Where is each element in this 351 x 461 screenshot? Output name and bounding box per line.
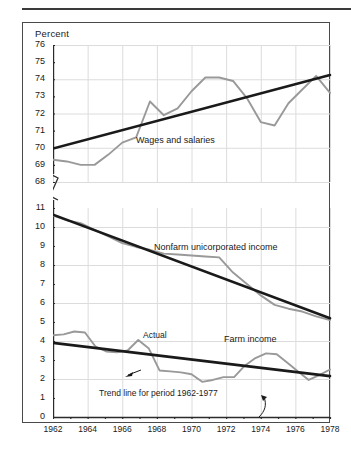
- y-tick-label-upper: 70: [27, 142, 45, 152]
- y-tick-label-lower: 7: [27, 278, 45, 288]
- actual-callout-arrow: [125, 372, 133, 377]
- y-tick-label-upper: 76: [27, 39, 45, 49]
- y-tick-label-upper: 75: [27, 56, 45, 66]
- y-tick-label-lower: 0: [27, 411, 45, 421]
- x-tick-label: 1978: [313, 424, 347, 434]
- plot-area: [53, 45, 330, 417]
- y-tick-label-lower: 5: [27, 316, 45, 326]
- x-tick-label: 1974: [244, 424, 278, 434]
- y-tick-label-upper: 69: [27, 159, 45, 169]
- y-tick-label-upper: 71: [27, 125, 45, 135]
- y-tick-label-lower: 3: [27, 354, 45, 364]
- wages-series-label: Wages and salaries: [136, 135, 215, 145]
- x-tick-label: 1972: [209, 424, 243, 434]
- x-tick-label: 1966: [105, 424, 139, 434]
- trend-callout-line: [259, 397, 265, 417]
- top-rule: [22, 8, 351, 10]
- trend-callout-arrow: [261, 395, 267, 401]
- y-tick-label-upper: 73: [27, 90, 45, 100]
- farm-series-label: Farm income: [224, 334, 277, 344]
- trend-annotation: Trend line for period 1962-1977: [99, 388, 218, 398]
- nonfarm-series-label: Nonfarm unicorporated income: [154, 242, 278, 252]
- x-tick-label: 1962: [36, 424, 70, 434]
- x-tick-label: 1976: [278, 424, 312, 434]
- y-tick-label-lower: 1: [27, 392, 45, 402]
- y-tick-label-upper: 72: [27, 108, 45, 118]
- y-tick-label-lower: 8: [27, 259, 45, 269]
- x-tick-label: 1964: [71, 424, 105, 434]
- y-axis-title: Percent: [35, 28, 69, 39]
- x-tick-label: 1970: [175, 424, 209, 434]
- y-tick-label-lower: 2: [27, 373, 45, 383]
- y-tick-label-lower: 10: [27, 221, 45, 231]
- y-tick-label-upper: 68: [27, 176, 45, 186]
- y-tick-label-lower: 6: [27, 297, 45, 307]
- y-tick-label-lower: 9: [27, 240, 45, 250]
- chart-svg: [53, 45, 332, 419]
- y-tick-label-upper: 74: [27, 73, 45, 83]
- y-tick-label-lower: 11: [27, 202, 45, 212]
- x-tick-label: 1968: [140, 424, 174, 434]
- actual-annotation: Actual: [143, 330, 167, 340]
- y-tick-label-lower: 4: [27, 335, 45, 345]
